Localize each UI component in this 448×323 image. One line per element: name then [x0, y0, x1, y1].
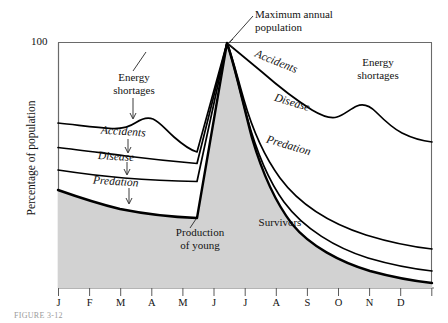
energy-shortages-right-label: Energy shortages: [346, 56, 410, 81]
population-area-chart: [0, 0, 448, 323]
x-tick-label-jun: J: [207, 297, 221, 308]
x-tick-label-aug: A: [269, 297, 283, 308]
production-of-young-label: Production of young: [162, 226, 238, 251]
disease-left-label: Disease: [98, 149, 135, 163]
energy-shortages-left-label: Energy shortages: [103, 71, 165, 96]
x-tick-label-sep: S: [300, 297, 314, 308]
energy-shortages-upper-leader: [133, 52, 146, 71]
x-tick-label-jul: J: [238, 297, 252, 308]
y-axis-max-label: 100: [31, 35, 48, 47]
y-axis-title: Percentage of population: [25, 58, 37, 258]
x-tick-label-nov: N: [363, 297, 377, 308]
x-tick-label-may: M: [176, 297, 190, 308]
x-tick-label-oct: O: [332, 297, 346, 308]
x-tick-label-apr: A: [145, 297, 159, 308]
x-tick-label-jan: J: [52, 297, 66, 308]
max-annual-population-label: Maximum annual population: [255, 8, 385, 33]
x-tick-label-mar: M: [114, 297, 128, 308]
x-axis-ticks: [59, 288, 432, 296]
x-tick-label-dec: D: [394, 297, 408, 308]
x-tick-label-feb: F: [83, 297, 97, 308]
figure-caption: FIGURE 3-12: [14, 311, 63, 320]
figure-root: Percentage of population 100 J F M A M J…: [0, 0, 448, 323]
survivors-label: Survivors: [249, 216, 311, 229]
